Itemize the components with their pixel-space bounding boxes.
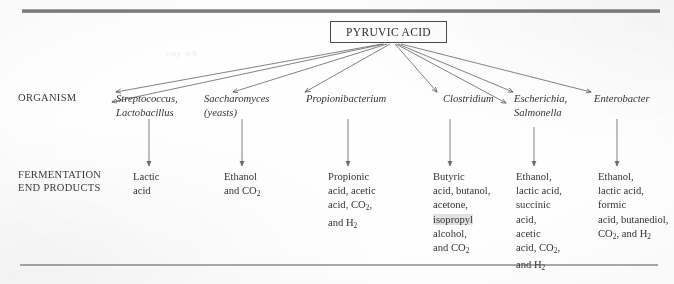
branch-arrow-6 bbox=[401, 44, 591, 92]
branch-arrow-4 bbox=[395, 44, 437, 92]
figure-page: ouy wh PYRUVIC ACID bbox=[0, 0, 674, 284]
bottom-divider-rule bbox=[20, 264, 658, 266]
products-list-2: Ethanoland CO2 bbox=[224, 170, 260, 201]
products-list-5: Ethanol,lactic acid,succinicacid,acetica… bbox=[516, 170, 562, 275]
row-label-fermentation-end-products: FERMENTATION END PRODUCTS bbox=[18, 168, 101, 194]
branch-arrow-2 bbox=[233, 44, 387, 92]
branch-arrow-5a bbox=[398, 44, 513, 92]
products-list-3: Propionicacid, aceticacid, CO2,and H2 bbox=[328, 170, 376, 233]
branch-arrow-3 bbox=[305, 44, 390, 92]
products-list-6: Ethanol,lactic acid,formicacid, butanedi… bbox=[598, 170, 668, 244]
organism-name-2: Saccharomyces (yeasts) bbox=[204, 92, 270, 119]
organism-name-5: Escherichia, Salmonella bbox=[514, 92, 567, 119]
branch-arrow-1a bbox=[116, 44, 382, 92]
organism-name-6: Enterobacter bbox=[594, 92, 650, 106]
organism-name-1: Streptococcus, Lactobacillus bbox=[116, 92, 178, 119]
scan-bleedthrough-artifact: ouy wh bbox=[166, 48, 198, 58]
row-label-organism: ORGANISM bbox=[18, 91, 76, 104]
products-list-4: Butyricacid, butanol,acetone,isopropylal… bbox=[433, 170, 490, 258]
products-list-1: Lacticacid bbox=[133, 170, 159, 198]
top-divider-rule bbox=[22, 9, 660, 13]
organism-name-4: Clostridium bbox=[443, 92, 494, 106]
pyruvic-acid-box: PYRUVIC ACID bbox=[330, 21, 447, 43]
organism-name-3: Propionibacterium bbox=[306, 92, 386, 106]
